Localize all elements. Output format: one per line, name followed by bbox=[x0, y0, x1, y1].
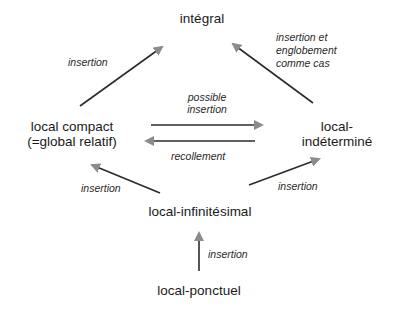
node-local-infinitesimal: local-infinitésimal bbox=[132, 204, 268, 219]
node-local-indetermine-line1: local- bbox=[297, 119, 377, 134]
node-integral: intégral bbox=[172, 11, 232, 26]
edge-label-compact-to-integral: insertion bbox=[68, 56, 108, 68]
node-local-compact-line1: local compact bbox=[14, 119, 130, 134]
node-local-infinitesimal-label: local-infinitésimal bbox=[149, 204, 252, 219]
node-local-indetermine: local- indéterminé bbox=[297, 119, 377, 149]
node-local-ponctuel: local-ponctuel bbox=[146, 283, 252, 298]
node-integral-label: intégral bbox=[180, 11, 224, 26]
node-local-compact-line2: (=global relatif) bbox=[14, 134, 130, 149]
node-local-ponctuel-label: local-ponctuel bbox=[157, 283, 240, 298]
edge-label-infinitesimal-to-compact: insertion bbox=[81, 182, 121, 194]
node-local-indetermine-line2: indéterminé bbox=[297, 134, 377, 149]
node-local-compact: local compact (=global relatif) bbox=[14, 119, 130, 149]
edge-label-compact-to-indetermine: possible insertion bbox=[177, 91, 237, 115]
edge-label-indetermine-to-integral: insertion et englobement comme cas bbox=[276, 31, 337, 70]
edge-label-indetermine-to-compact: recollement bbox=[171, 150, 225, 162]
edge-label-ponctuel-to-infinitesimal: insertion bbox=[208, 248, 248, 260]
edge-label-infinitesimal-to-indetermine: insertion bbox=[278, 180, 318, 192]
